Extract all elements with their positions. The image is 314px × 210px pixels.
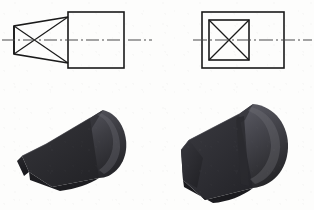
figure-root — [0, 0, 314, 210]
orthographic-view-left — [0, 0, 157, 88]
orthographic-view-right — [157, 0, 314, 88]
panel-solid-right — [157, 88, 314, 210]
panel-drawing-right — [157, 0, 314, 88]
cross-line-b-left — [14, 17, 68, 54]
solid-model-left — [0, 88, 157, 210]
solid-model-right — [157, 88, 314, 210]
panel-drawing-left — [0, 0, 157, 88]
cross-line-a-left — [14, 26, 68, 63]
panel-solid-left — [0, 88, 157, 210]
